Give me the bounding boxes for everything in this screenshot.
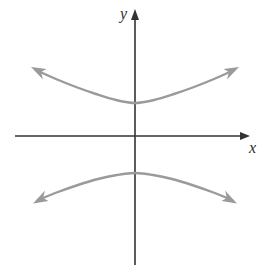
hyperbola-graph-figure: y x — [0, 0, 269, 269]
y-axis-arrowhead-icon — [131, 9, 139, 20]
y-axis-label: y — [120, 6, 127, 22]
y-axis — [131, 9, 139, 265]
x-axis-label: x — [249, 140, 256, 156]
coordinate-plane — [0, 0, 269, 269]
x-axis — [15, 132, 250, 140]
